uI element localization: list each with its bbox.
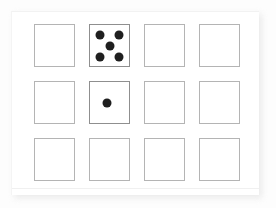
- grid-cell-r1-c1: [34, 24, 75, 67]
- grid-cell-r2-c4: [199, 81, 240, 124]
- die-pip: [95, 30, 104, 39]
- square-grid: [34, 24, 240, 182]
- die-pip: [115, 30, 124, 39]
- grid-cell-r1-c3: [144, 24, 185, 67]
- die-pip: [115, 52, 124, 61]
- worksheet-card: [11, 11, 259, 195]
- scene-root: [0, 0, 276, 208]
- grid-cell-r1-c4: [199, 24, 240, 67]
- die-pip: [105, 41, 114, 50]
- grid-cell-r3-c1: [34, 138, 75, 181]
- die-pip: [103, 98, 112, 107]
- grid-cell-r3-c4: [199, 138, 240, 181]
- grid-cell-r1-c2: [89, 24, 130, 67]
- die-pip: [95, 52, 104, 61]
- grid-cell-r2-c2: [89, 81, 130, 124]
- card-crease-line: [12, 188, 259, 189]
- grid-cell-r2-c3: [144, 81, 185, 124]
- grid-cell-r3-c2: [89, 138, 130, 181]
- grid-cell-r3-c3: [144, 138, 185, 181]
- grid-cell-r2-c1: [34, 81, 75, 124]
